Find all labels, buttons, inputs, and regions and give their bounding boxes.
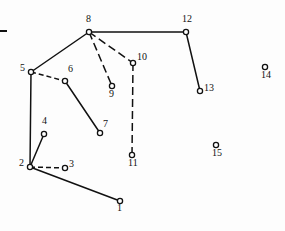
node-marker-10[interactable] <box>130 60 135 65</box>
node-label-3: 3 <box>69 159 74 169</box>
node-marker-3[interactable] <box>62 165 67 170</box>
node-marker-6[interactable] <box>62 78 67 83</box>
node-label-4: 4 <box>42 116 47 126</box>
node-label-9: 9 <box>109 89 114 99</box>
edge-10-11 <box>132 63 133 155</box>
node-label-2: 2 <box>19 158 24 168</box>
edge-5-6 <box>31 72 65 81</box>
node-marker-8[interactable] <box>86 29 91 34</box>
edge-2-5 <box>30 72 31 167</box>
edge-2-3 <box>30 167 65 168</box>
node-label-11: 11 <box>128 158 138 168</box>
node-label-8: 8 <box>86 14 91 24</box>
node-label-12: 12 <box>182 14 192 24</box>
node-marker-13[interactable] <box>197 88 202 93</box>
node-marker-7[interactable] <box>97 130 102 135</box>
edge-5-8 <box>31 32 89 72</box>
edge-6-7 <box>65 81 100 133</box>
edge-2-1 <box>30 167 120 201</box>
node-marker-2[interactable] <box>27 164 32 169</box>
node-label-13: 13 <box>204 83 214 93</box>
node-marker-4[interactable] <box>41 131 46 136</box>
edge-2-4 <box>30 134 44 167</box>
edges-layer <box>30 32 200 201</box>
node-label-7: 7 <box>103 119 108 129</box>
edge-12-13 <box>186 32 200 91</box>
node-label-6: 6 <box>68 64 73 74</box>
node-label-10: 10 <box>137 52 147 62</box>
node-label-15: 15 <box>212 148 222 158</box>
node-label-1: 1 <box>117 203 122 213</box>
node-link-diagram: 123456789101112131415 <box>0 0 285 231</box>
node-label-14: 14 <box>261 70 271 80</box>
node-marker-5[interactable] <box>28 69 33 74</box>
nodes-layer <box>27 29 267 203</box>
node-marker-12[interactable] <box>183 29 188 34</box>
node-label-5: 5 <box>20 63 25 73</box>
